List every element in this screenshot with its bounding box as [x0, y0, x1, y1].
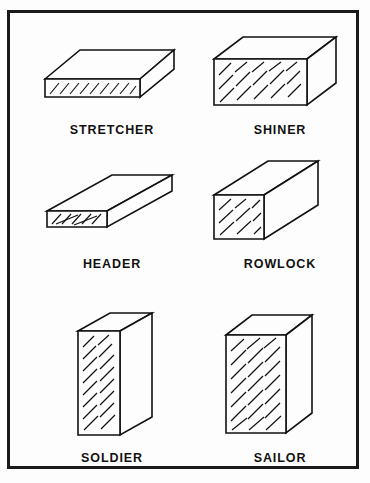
brick-label-soldier: SOLDIER [32, 451, 192, 465]
sailor-brick-drawing [200, 309, 360, 447]
header-brick-drawing [32, 163, 192, 251]
brick-cell-rowlock: ROWLOCK [200, 153, 360, 281]
stretcher-brick-drawing [32, 37, 192, 117]
brick-label-rowlock: ROWLOCK [200, 257, 360, 271]
figure-border-frame: STRETCHER [7, 10, 359, 469]
brick-positions-figure: STRETCHER [0, 0, 370, 483]
soldier-brick-drawing [32, 309, 192, 447]
brick-label-sailor: SAILOR [200, 451, 360, 465]
brick-cell-header: HEADER [32, 163, 192, 281]
brick-label-stretcher: STRETCHER [32, 123, 192, 137]
brick-label-header: HEADER [32, 257, 192, 271]
shiner-brick-drawing [200, 27, 360, 119]
brick-label-shiner: SHINER [200, 123, 360, 137]
brick-cell-soldier: SOLDIER [32, 309, 192, 473]
brick-cell-stretcher: STRETCHER [32, 37, 192, 147]
brick-cell-shiner: SHINER [200, 27, 360, 147]
brick-cell-sailor: SAILOR [200, 309, 360, 473]
rowlock-brick-drawing [200, 153, 360, 253]
